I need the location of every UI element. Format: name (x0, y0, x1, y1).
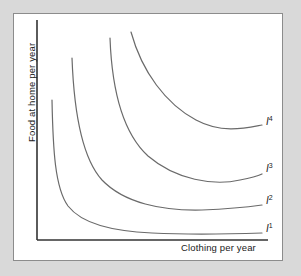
curve-label-i3-sup: 3 (269, 162, 273, 169)
curve-label-i2: I2 (266, 195, 273, 206)
y-axis-title: Food at home per year (26, 43, 37, 142)
curve-label-i4: I4 (266, 116, 273, 127)
chart-panel (13, 13, 283, 261)
figure-root: Clothing per year Food at home per year … (0, 0, 301, 276)
curve-label-i1-sup: 1 (269, 222, 273, 229)
x-axis-title: Clothing per year (181, 242, 256, 253)
curve-label-i1: I1 (266, 223, 273, 234)
curve-label-i4-sup: 4 (269, 115, 273, 122)
curve-label-i2-sup: 2 (269, 194, 273, 201)
curve-label-i3: I3 (266, 163, 273, 174)
